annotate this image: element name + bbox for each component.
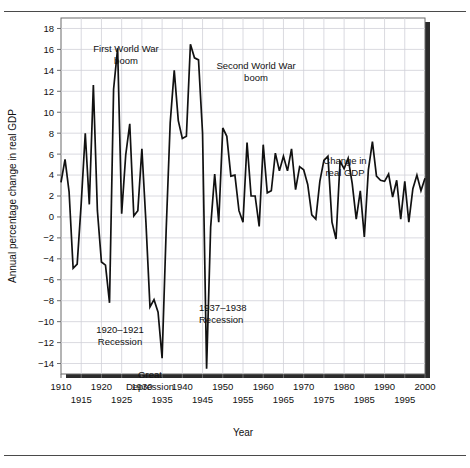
annotation-line: First World War [93,43,158,54]
y-tick-label--6: −6 [43,274,54,285]
x-tick-label-2000: 2000 [414,381,435,392]
x-tick-label-1945: 1945 [192,394,213,405]
y-tick-label--10: −10 [38,316,54,327]
y-tick-label-16: 16 [43,44,54,55]
x-tick-label-1975: 1975 [313,394,334,405]
y-tick-label--14: −14 [38,358,54,369]
bottom-rule [4,455,466,456]
x-tick-label-1980: 1980 [334,381,355,392]
y-tick-label-8: 8 [49,128,54,139]
x-tick-label-1920: 1920 [91,381,112,392]
y-axis-title: Annual percentage change in real GDP [7,109,18,283]
y-tick-labels: −14−12−10−8−6−4−2024681012141618 [38,23,61,369]
y-tick-label-0: 0 [49,211,54,222]
x-tick-label-1970: 1970 [293,381,314,392]
y-tick-label--12: −12 [38,337,54,348]
figure-container: −14−12−10−8−6−4−2024681012141618 1910191… [0,0,470,468]
annotation-line: Depression [126,381,174,392]
x-tick-label-1990: 1990 [374,381,395,392]
annotation-nineteen-thirtyseven-thirtyeight-recession: 1937–1938Recession [199,302,247,325]
annotation-line: 1937–1938 [199,302,247,313]
y-tick-label--8: −8 [43,295,54,306]
annotation-line: boom [244,72,268,83]
x-tick-label-1940: 1940 [172,381,193,392]
gdp-line-chart: −14−12−10−8−6−4−2024681012141618 1910191… [0,0,470,452]
y-tick-label-6: 6 [49,149,54,160]
y-tick-label-12: 12 [43,86,54,97]
annotation-line: Recession [199,314,243,325]
annotation-nineteen-twenty-twenty-one-recession: 1920–1921Recession [96,324,144,347]
x-tick-label-1955: 1955 [232,394,253,405]
x-tick-label-1915: 1915 [71,394,92,405]
annotation-line: real GDP [325,167,364,178]
x-tick-label-1985: 1985 [354,394,375,405]
x-tick-label-1925: 1925 [111,394,132,405]
x-axis-title: Year [233,427,254,438]
annotation-line: Recession [98,336,142,347]
annotation-line: boom [114,55,138,66]
y-tick-label-14: 14 [43,65,54,76]
x-tick-label-1995: 1995 [394,394,415,405]
y-tick-label-4: 4 [49,169,54,180]
chart-area: −14−12−10−8−6−4−2024681012141618 1910191… [0,0,470,452]
x-tick-label-1960: 1960 [253,381,274,392]
y-tick-label-2: 2 [49,190,54,201]
annotation-change-in-real-gdp: Change inreal GDP [323,155,366,178]
y-tick-label-10: 10 [43,107,54,118]
y-tick-label--2: −2 [43,232,54,243]
annotation-line: Change in [323,155,366,166]
x-tick-label-1965: 1965 [273,394,294,405]
x-tick-label-1950: 1950 [212,381,233,392]
y-tick-label--4: −4 [43,253,54,264]
x-tick-labels: 1910191519201925193019351940194519501955… [50,374,435,405]
x-tick-label-1935: 1935 [152,394,173,405]
x-tick-label-1910: 1910 [50,381,71,392]
y-tick-label-18: 18 [43,23,54,34]
annotation-line: Great [138,369,162,380]
annotation-line: 1920–1921 [96,324,144,335]
annotation-line: Second World War [216,60,295,71]
